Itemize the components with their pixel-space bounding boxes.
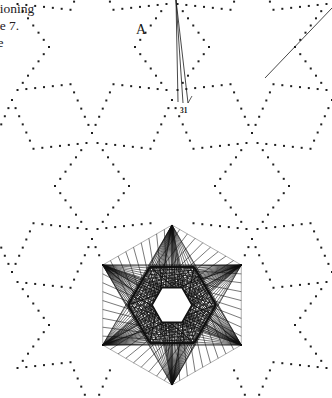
string-art-star xyxy=(103,225,242,385)
body-text-block: sitioning age 7. the xyxy=(0,0,62,51)
body-text-line-2: age 7. xyxy=(0,17,62,34)
body-text-line-1: sitioning xyxy=(0,0,62,17)
figure-number-label: 31 xyxy=(180,106,188,115)
figure-canvas xyxy=(0,0,332,398)
point-label-a: A xyxy=(136,22,146,38)
figure-page: sitioning age 7. the A 31 xyxy=(0,0,332,398)
body-text-line-3: the xyxy=(0,34,62,51)
